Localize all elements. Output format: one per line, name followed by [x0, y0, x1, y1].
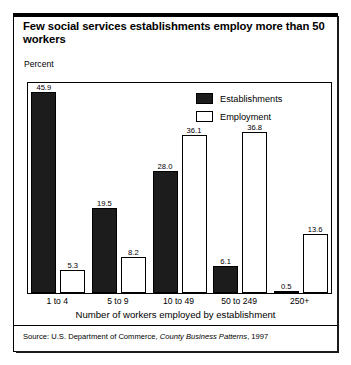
x-tick-label-50-to-249: 50 to 249: [221, 296, 257, 306]
bar-value-label: 6.1: [220, 258, 231, 266]
bar-establishments-10-to-49: 28.0: [153, 171, 178, 294]
filled-black-square-icon: [196, 93, 213, 104]
legend-label-establishments: Establishments: [220, 94, 282, 104]
bar-value-label: 28.0: [158, 163, 173, 171]
source-suffix: , 1997: [247, 332, 268, 341]
bar-value-label: 8.2: [128, 249, 139, 257]
source-publication: County Business Patterns: [160, 332, 247, 341]
bar-employment-50-to-249: 36.8: [242, 132, 267, 293]
source-prefix: Source: U.S. Department of Commerce,: [23, 332, 158, 341]
title-band: Few social services establishments emplo…: [14, 14, 337, 54]
bar-employment-1-to-4: 5.3: [60, 270, 85, 293]
plot-area: 45.95.319.58.228.036.16.136.80.513.6 Est…: [27, 82, 332, 294]
bar-value-label: 19.5: [97, 200, 112, 208]
bar-value-label: 0.5: [281, 283, 292, 291]
hollow-white-square-icon: [196, 111, 213, 122]
x-tick-label-250+: 250+: [290, 296, 309, 306]
bar-value-label: 13.6: [308, 226, 323, 234]
x-tick-label-5-to-9: 5 to 9: [107, 296, 129, 306]
bar-value-label: 45.9: [36, 84, 51, 92]
bar-employment-250+: 13.6: [303, 234, 328, 294]
bar-value-label: 5.3: [68, 262, 79, 270]
legend-item-employment: Employment: [196, 109, 282, 124]
x-axis-tick-labels: 1 to 45 to 910 to 4950 to 249250+: [27, 296, 332, 309]
bar-establishments-1-to-4: 45.9: [31, 92, 56, 293]
chart-title: Few social services establishments emplo…: [23, 20, 331, 47]
figure-frame: Few social services establishments emplo…: [13, 13, 338, 352]
frame-shadow: [337, 16, 339, 353]
legend-item-establishments: Establishments: [196, 91, 282, 106]
bar-establishments-5-to-9: 19.5: [92, 208, 117, 293]
bars-container: 45.95.319.58.228.036.16.136.80.513.6: [28, 83, 331, 293]
x-axis-title: Number of workers employed by establishm…: [14, 309, 337, 320]
bar-establishments-250+: 0.5: [274, 291, 299, 293]
legend-label-employment: Employment: [220, 112, 271, 122]
bar-establishments-50-to-249: 6.1: [213, 266, 238, 293]
x-tick-label-1-to-4: 1 to 4: [47, 296, 69, 306]
title-rule: [14, 14, 337, 17]
bar-employment-5-to-9: 8.2: [121, 257, 146, 293]
y-axis-unit-label: Percent: [24, 59, 54, 69]
source-note: Source: U.S. Department of Commerce, Cou…: [23, 332, 268, 341]
bar-value-label: 36.1: [187, 127, 202, 135]
legend: Establishments Employment: [196, 91, 282, 127]
source-rule: [14, 325, 337, 326]
x-tick-label-10-to-49: 10 to 49: [163, 296, 194, 306]
bar-employment-10-to-49: 36.1: [182, 135, 207, 293]
